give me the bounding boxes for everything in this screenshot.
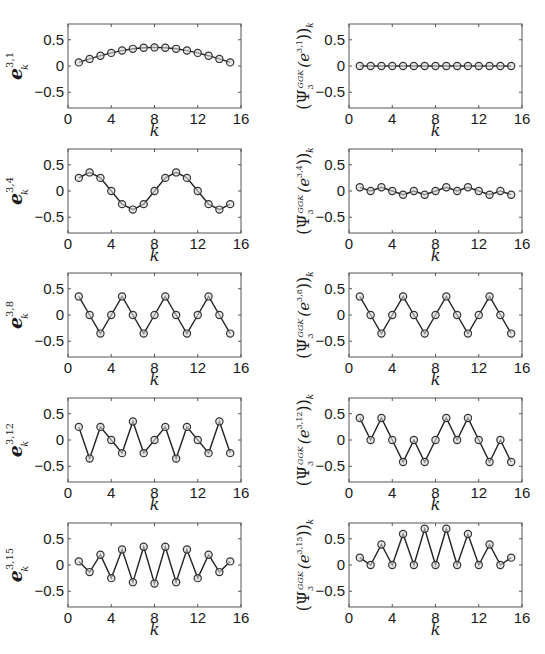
y-axis-label: e3,1k [4,52,30,80]
data-point-marker [227,201,234,208]
y-tick-label: 0 [337,556,345,573]
data-point-marker [97,174,104,181]
data-point-marker [118,47,125,54]
data-point-marker [497,436,504,443]
data-point-marker [367,187,374,194]
data-point-marker [129,311,136,318]
data-point-marker [378,414,385,421]
data-point-marker [399,191,406,198]
data-point-marker [454,187,461,194]
x-axis-label: k [431,495,441,514]
data-point-marker [399,458,406,465]
data-point-marker [129,206,136,213]
data-point-marker [97,551,104,558]
data-point-marker [454,561,461,568]
x-axis-label: k [150,620,160,639]
data-point-marker [421,525,428,532]
x-tick-label: 0 [345,235,353,252]
data-point-marker [183,47,190,54]
y-tick-label: 0.5 [324,156,345,173]
data-point-marker [151,436,158,443]
data-point-marker [194,575,201,582]
subplot-row1-right: 04812160.50−0.5k(Ψ3GGK(e3,1))k [294,22,530,140]
data-point-marker [108,311,115,318]
y-tick-label: 0.5 [324,31,345,48]
data-point-marker [356,414,363,421]
y-tick-label: 0 [56,431,64,448]
x-tick-label: 16 [233,609,250,626]
data-point-marker [86,55,93,62]
data-point-marker [356,184,363,191]
data-point-marker [162,44,169,51]
x-tick-label: 0 [64,235,72,252]
data-point-marker [497,62,504,69]
data-point-marker [432,62,439,69]
y-tick-label: 0.5 [324,280,345,297]
y-tick-label: −0.5 [315,332,345,349]
data-point-marker [497,561,504,568]
subplot-row4-right: 04812160.50−0.5k(Ψ3GGK(e3,12))k [294,394,530,514]
data-point-marker [205,201,212,208]
data-point-marker [508,458,515,465]
data-point-marker [140,330,147,337]
data-point-marker [75,59,82,66]
data-point-marker [389,62,396,69]
y-axis-label: e3,4k [4,177,30,205]
data-point-marker [194,311,201,318]
data-point-marker [183,174,190,181]
data-point-marker [86,169,93,176]
x-tick-label: 0 [64,359,72,376]
x-tick-label: 0 [345,609,353,626]
x-tick-label: 4 [107,609,115,626]
data-point-marker [464,184,471,191]
subplot-row5-right: 04812160.50−0.5k(Ψ3GGK(e3,15))k [294,519,530,639]
x-tick-label: 12 [470,110,487,127]
data-point-marker [399,530,406,537]
data-point-marker [454,62,461,69]
y-tick-label: 0 [337,182,345,199]
data-point-marker [356,293,363,300]
y-tick-label: −0.5 [34,332,64,349]
data-point-marker [389,311,396,318]
y-tick-label: 0.5 [43,405,64,422]
data-point-marker [216,55,223,62]
data-point-marker [162,293,169,300]
y-tick-label: 0 [56,57,64,74]
y-tick-label: −0.5 [34,457,64,474]
y-axis-label: e3,15k [4,548,30,582]
x-tick-label: 4 [388,359,396,376]
data-point-marker [454,436,461,443]
x-tick-label: 4 [107,110,115,127]
y-tick-label: −0.5 [34,582,64,599]
axes-box [68,24,241,108]
y-tick-label: 0 [337,57,345,74]
data-point-marker [194,49,201,56]
x-tick-label: 4 [107,359,115,376]
data-point-marker [97,52,104,59]
data-point-marker [486,458,493,465]
data-point-marker [183,546,190,553]
data-point-marker [486,541,493,548]
x-axis-label: k [150,246,160,265]
data-point-marker [367,311,374,318]
y-axis-label: e3,12k [4,423,30,457]
x-tick-label: 0 [64,110,72,127]
data-point-marker [356,554,363,561]
x-tick-label: 4 [107,235,115,252]
y-tick-label: 0.5 [43,280,64,297]
data-point-marker [97,330,104,337]
data-point-marker [183,423,190,430]
x-axis-label: k [150,121,160,140]
x-tick-label: 4 [388,484,396,501]
data-point-marker [75,174,82,181]
data-point-marker [140,201,147,208]
y-tick-label: −0.5 [315,582,345,599]
y-tick-label: −0.5 [34,208,64,225]
x-tick-label: 0 [345,484,353,501]
subplot-row3-left: 04812160.50−0.5ke3,8k [4,273,249,389]
data-point-marker [410,436,417,443]
x-tick-label: 16 [233,484,250,501]
data-point-marker [378,330,385,337]
data-point-marker [399,293,406,300]
x-tick-label: 12 [470,359,487,376]
